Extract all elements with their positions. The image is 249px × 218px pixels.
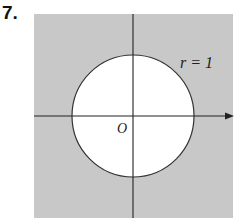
origin-label: O [117, 121, 127, 136]
polar-region-diagram: r = 1 O [0, 0, 249, 218]
radius-label: r = 1 [180, 54, 213, 71]
